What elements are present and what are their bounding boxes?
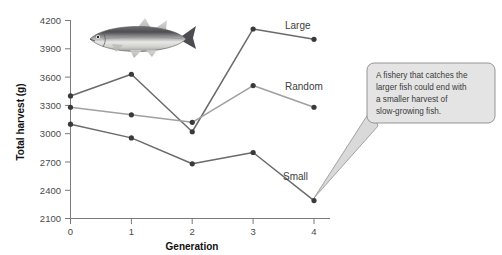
x-axis-title: Generation bbox=[166, 241, 219, 252]
data-point-small-gen4 bbox=[311, 198, 316, 203]
data-point-large-gen4 bbox=[311, 37, 316, 42]
harvest-line-chart: 4200 3900 3600 3300 3000 2700 2400 2100 … bbox=[0, 0, 502, 255]
y-tick-label-3900: 3900 bbox=[40, 43, 61, 54]
data-point-small-gen2 bbox=[190, 161, 195, 166]
data-point-small-gen1 bbox=[129, 135, 134, 140]
x-axis: 0 1 2 3 4 Generation bbox=[68, 219, 330, 253]
data-point-large-gen2 bbox=[190, 129, 195, 134]
fish-illustration bbox=[90, 18, 196, 58]
callout-pointer bbox=[314, 108, 378, 198]
y-tick-label-3000: 3000 bbox=[40, 128, 61, 139]
y-tick-label-3300: 3300 bbox=[40, 100, 61, 111]
callout-line-3: a smaller harvest of bbox=[376, 95, 448, 104]
data-point-large-gen1 bbox=[129, 72, 134, 77]
figure-container: 4200 3900 3600 3300 3000 2700 2400 2100 … bbox=[0, 0, 502, 255]
data-point-small-gen0 bbox=[68, 122, 73, 127]
y-tick-label-2700: 2700 bbox=[40, 157, 61, 168]
series-label-random: Random bbox=[285, 81, 323, 92]
series-label-small: Small bbox=[283, 171, 308, 182]
callout-line-2: larger fish could end with bbox=[376, 83, 467, 92]
data-point-random-gen3 bbox=[251, 83, 256, 88]
series-line-random bbox=[71, 86, 315, 123]
x-tick-label-2: 2 bbox=[190, 226, 195, 237]
x-tick-label-0: 0 bbox=[68, 226, 73, 237]
callout-line-1: A fishery that catches the bbox=[376, 71, 468, 80]
data-point-random-gen4 bbox=[311, 105, 316, 110]
y-tick-label-4200: 4200 bbox=[40, 15, 61, 26]
y-tick-label-3600: 3600 bbox=[40, 72, 61, 83]
series-layer bbox=[68, 26, 317, 203]
data-point-random-gen2 bbox=[190, 120, 195, 125]
data-point-small-gen3 bbox=[251, 150, 256, 155]
y-tick-label-2400: 2400 bbox=[40, 185, 61, 196]
x-tick-label-1: 1 bbox=[129, 226, 134, 237]
data-point-random-gen0 bbox=[68, 105, 73, 110]
callout-line-4: slow-growing fish. bbox=[376, 107, 441, 116]
series-random bbox=[68, 83, 317, 125]
data-point-large-gen3 bbox=[251, 26, 256, 31]
x-tick-label-3: 3 bbox=[250, 226, 255, 237]
series-label-large: Large bbox=[285, 20, 311, 31]
callout-annotation: A fishery that catches the larger fish c… bbox=[314, 63, 495, 198]
x-tick-label-4: 4 bbox=[311, 226, 316, 237]
data-point-random-gen1 bbox=[129, 112, 134, 117]
data-point-large-gen0 bbox=[68, 93, 73, 98]
y-axis: 4200 3900 3600 3300 3000 2700 2400 2100 … bbox=[15, 15, 71, 224]
y-axis-title: Total harvest (g) bbox=[15, 83, 26, 160]
y-tick-label-2100: 2100 bbox=[40, 213, 61, 224]
